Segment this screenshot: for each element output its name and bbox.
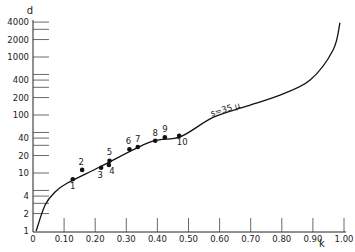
x-tick-label: 0 xyxy=(30,234,35,244)
data-point xyxy=(163,135,168,140)
data-point-label: 6 xyxy=(126,136,131,146)
x-axis-title: k xyxy=(319,238,325,249)
y-tick-label: 40 xyxy=(18,133,29,143)
data-point-label: 5 xyxy=(107,147,112,157)
x-tick-label: 1.00 xyxy=(335,234,354,244)
curve-annotation: s=35 μ xyxy=(209,100,242,119)
data-point xyxy=(127,147,132,152)
data-point-label: 3 xyxy=(97,170,102,180)
y-tick-label: 400 xyxy=(13,75,29,85)
y-tick-label: 2 xyxy=(24,209,29,219)
data-point-label: 2 xyxy=(78,157,83,167)
x-tick-label: 0.70 xyxy=(241,234,260,244)
x-tick-label: 0.10 xyxy=(55,234,74,244)
y-tick-label: 10 xyxy=(18,168,29,178)
data-points: 12345678910 xyxy=(70,124,187,191)
y-tick-label: 4000 xyxy=(7,17,29,27)
y-tick-label: 100 xyxy=(13,110,29,120)
axes: 12410204010020040010002000400000.100.200… xyxy=(7,17,353,244)
y-tick-label: 4 xyxy=(24,191,29,201)
y-tick-label: 200 xyxy=(13,93,29,103)
x-tick-label: 0.40 xyxy=(148,234,167,244)
chart: 12410204010020040010002000400000.100.200… xyxy=(0,0,355,252)
data-point-label: 10 xyxy=(177,137,188,147)
x-tick-label: 0.80 xyxy=(272,234,291,244)
data-point-label: 8 xyxy=(153,128,158,138)
x-tick-label: 0.50 xyxy=(179,234,198,244)
data-point xyxy=(107,158,112,163)
y-tick-label: 20 xyxy=(18,151,29,161)
data-point-label: 9 xyxy=(162,124,167,134)
data-point xyxy=(80,168,85,173)
x-tick-label: 0.30 xyxy=(117,234,136,244)
x-tick-label: 0.60 xyxy=(210,234,229,244)
data-point xyxy=(153,138,158,143)
data-point-label: 7 xyxy=(135,134,140,144)
y-tick-label: 1000 xyxy=(7,52,29,62)
x-tick-label: 0.20 xyxy=(86,234,105,244)
data-point-label: 1 xyxy=(70,181,75,191)
y-tick-label: 1 xyxy=(24,226,29,236)
y-axis-title: d xyxy=(27,5,33,16)
data-point xyxy=(136,145,141,150)
y-tick-label: 2000 xyxy=(7,35,29,45)
curve-s35 xyxy=(36,23,340,231)
data-point-label: 4 xyxy=(109,166,114,176)
curve-line xyxy=(36,23,340,231)
